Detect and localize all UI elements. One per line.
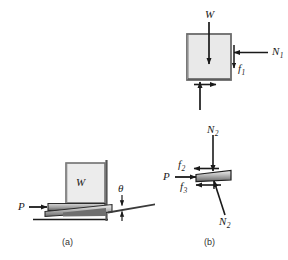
n2-top-base: N [207, 123, 214, 135]
panel-b-normal-n2-bottom-label: N2 [219, 216, 230, 227]
panel-a-weight-label: W [76, 177, 85, 188]
panel-a-caption: (a) [62, 238, 73, 247]
panel-a-angle-label: θ [118, 183, 123, 194]
panel-a-wedge [45, 204, 112, 217]
f2-sub: 2 [182, 164, 186, 173]
panel-b-weight-label: W [205, 9, 214, 20]
panel-b-force-p-label: P [163, 171, 170, 182]
f3-base: f [180, 180, 183, 192]
panel-b-friction-f3-label: f3 [180, 181, 187, 192]
panel-b-normal-n2-top-label: N2 [207, 124, 218, 135]
n1-base: N [272, 45, 279, 57]
panel-a-force-p-label: P [18, 201, 25, 212]
panel-a-incline-line [108, 204, 155, 214]
panel-b-friction-f2-label: f2 [178, 159, 185, 170]
panel-b-caption: (b) [204, 238, 215, 247]
panel-b-friction-f1-label: f1 [238, 63, 245, 74]
panel-b-force-n2-bottom-arrow [214, 181, 225, 215]
f1-sub: 1 [242, 68, 246, 77]
n2-bottom-base: N [219, 215, 226, 227]
figure-graphics [0, 0, 288, 260]
n1-sub: 1 [280, 51, 284, 60]
panel-b-normal-n1-label: N1 [272, 46, 283, 57]
f2-base: f [178, 158, 181, 170]
figure-container: W P θ (a) W N1 f1 N2 f2 f3 N2 P (b) [0, 0, 288, 260]
f3-sub: 3 [184, 186, 188, 195]
n2-top-sub: 2 [215, 129, 219, 138]
panel-b-wedge [196, 171, 231, 182]
n2-bottom-sub: 2 [227, 221, 231, 230]
panel-a-block [66, 163, 105, 203]
f1-base: f [238, 62, 241, 74]
